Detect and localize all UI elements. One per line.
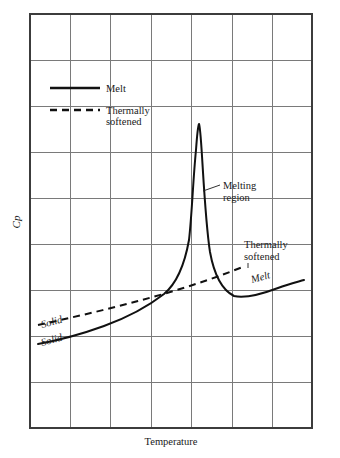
- legend: Melt Thermally softened: [50, 83, 150, 128]
- x-axis-label: Temperature: [145, 436, 198, 447]
- inline-label-melt: Melt: [249, 269, 272, 285]
- inline-label-solid-melt: Solid: [40, 332, 64, 348]
- inline-label-solid-dashed: Solid: [40, 314, 64, 330]
- grid-horizontal-lines: [30, 60, 312, 382]
- thermal-analysis-chart: Melt Thermally softened Melting region T…: [0, 0, 340, 458]
- melting-region-leader-line: [203, 185, 220, 191]
- plot-frame: [30, 14, 312, 428]
- thermally-softened-label-line1: Thermally: [244, 239, 288, 250]
- curve-thermally-softened: [38, 266, 245, 325]
- y-axis-label: Cp: [10, 215, 22, 228]
- legend-label-thermally-softened-line2: softened: [106, 116, 142, 127]
- legend-label-thermally-softened-line1: Thermally: [106, 105, 150, 116]
- legend-label-melt: Melt: [106, 83, 126, 94]
- curve-melt: [38, 124, 304, 344]
- melting-region-label-line1: Melting: [223, 180, 257, 191]
- grid-vertical-lines: [70, 14, 272, 428]
- annotation-melting-region: Melting region: [203, 180, 257, 203]
- thermally-softened-label-line2: softened: [244, 251, 280, 262]
- chart-figure: Melt Thermally softened Melting region T…: [0, 0, 340, 458]
- annotation-thermally-softened: Thermally softened: [244, 239, 288, 268]
- melting-region-label-line2: region: [223, 192, 251, 203]
